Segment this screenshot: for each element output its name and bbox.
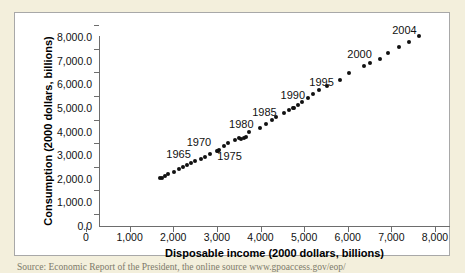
y-axis-tick [94, 143, 99, 144]
data-point [386, 51, 390, 55]
data-point [317, 88, 321, 92]
year-annotation: 1990 [281, 89, 305, 101]
x-axis-tick-label: 3,000 [204, 232, 230, 243]
y-axis-tick [94, 96, 99, 97]
x-axis-tick-label: 4,000 [247, 232, 273, 243]
data-point [368, 61, 372, 65]
y-axis-tick [94, 214, 99, 215]
x-axis-tick-label: 0 [83, 232, 89, 243]
data-point [407, 40, 411, 44]
data-point [193, 159, 197, 163]
y-axis-tick-label: 6,000.0 [57, 79, 92, 89]
x-axis-tick-label: 7,000 [378, 232, 404, 243]
data-point [270, 118, 274, 122]
x-axis-tick-label: 2,000 [160, 232, 186, 243]
y-axis-tick [94, 120, 99, 121]
y-axis-tick [94, 190, 99, 191]
y-axis-tick [94, 49, 99, 50]
data-point [282, 111, 286, 115]
data-point [397, 45, 401, 49]
data-point [247, 130, 251, 134]
chart-panel: Consumption (2000 dollars, billions) 0.0… [14, 12, 450, 256]
data-point [244, 135, 248, 139]
y-axis-tick-labels: 0.01,000.02,000.03,000.04,000.05,000.06,… [15, 13, 92, 273]
data-point [177, 167, 181, 171]
y-axis-line [99, 36, 100, 227]
y-axis-tick [94, 167, 99, 168]
data-point [296, 103, 300, 107]
year-annotation: 2004 [392, 24, 416, 36]
year-annotation: 1985 [252, 106, 276, 118]
y-axis-tick-label: 2,000.0 [57, 174, 92, 184]
x-axis-tick-label: 1,000 [116, 232, 142, 243]
year-annotation: 2000 [347, 48, 371, 60]
y-axis-tick-label: 8,000.0 [57, 32, 92, 42]
year-annotation: 1970 [187, 136, 211, 148]
x-axis-tick-label: 5,000 [291, 232, 317, 243]
x-axis-title: Disposable income (2000 dollars, billion… [100, 247, 449, 259]
year-annotation: 1980 [229, 118, 253, 130]
source-caption: Source: Economic Report of the President… [17, 262, 447, 273]
x-axis-tick-label: 8,000 [422, 232, 448, 243]
y-axis-tick-label: 7,000.0 [57, 56, 92, 66]
data-point [208, 152, 212, 156]
year-annotation: 1975 [217, 150, 241, 162]
data-point [264, 122, 268, 126]
data-point [347, 71, 351, 75]
y-axis-tick [94, 25, 99, 26]
x-axis-line [99, 226, 450, 227]
data-point [258, 126, 262, 130]
y-axis-tick [94, 72, 99, 73]
data-point [166, 172, 170, 176]
y-axis-tick-label: 4,000.0 [57, 127, 92, 137]
data-point [417, 34, 421, 38]
data-point [338, 78, 342, 82]
figure-root: Consumption (2000 dollars, billions) 0.0… [0, 0, 465, 273]
data-point [378, 57, 382, 61]
y-axis-tick-label: 0.0 [77, 221, 92, 231]
data-point [311, 92, 315, 96]
data-point [172, 170, 176, 174]
y-axis-tick-label: 5,000.0 [57, 103, 92, 113]
year-annotation: 1995 [309, 76, 333, 88]
data-point [362, 64, 366, 68]
data-point [181, 165, 185, 169]
x-axis-tick-label: 6,000 [335, 232, 361, 243]
data-point [199, 157, 203, 161]
data-point [226, 141, 230, 145]
year-annotation: 1965 [166, 148, 190, 160]
data-point [203, 155, 207, 159]
data-point [222, 144, 226, 148]
y-axis-tick-label: 1,000.0 [57, 197, 92, 207]
y-axis-tick-label: 3,000.0 [57, 150, 92, 160]
data-point [306, 96, 310, 100]
